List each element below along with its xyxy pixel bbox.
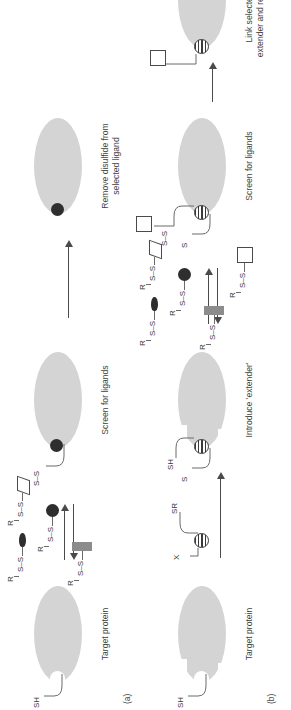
panel-a: (a) SH Target protein R S–S (4, 0, 146, 710)
panel-b-caption-extender: Introduce 'extender' (244, 325, 255, 475)
panel-a-caption-remove-l1: Remove disulfide from (100, 123, 110, 209)
reagent-x-label: X (172, 555, 181, 560)
library-b-2-residue: R (138, 284, 147, 290)
library-a-4-disulfide: S–S (76, 561, 85, 576)
library-a-4-residue: R (66, 580, 75, 586)
panel-a-label: (a) (122, 694, 132, 704)
library-b-4-disulfide: S–S (208, 325, 217, 340)
protein-pocket-step-b (218, 429, 226, 438)
library-b-ligand-square (237, 247, 253, 263)
library-b-5-disulfide: S–S (238, 273, 247, 288)
thiol-bond-line (186, 672, 210, 698)
extender-thiol-bond (170, 434, 196, 458)
protein-pocket-step-a (178, 659, 187, 672)
protein-blob (34, 586, 82, 682)
scientific-figure: (a) SH Target protein R S–S (0, 0, 291, 710)
library-a-ligand-circle (46, 504, 59, 517)
library-b-ligand-teardrop (151, 297, 158, 311)
library-a-ligand-parallelogram (17, 476, 30, 496)
library-b-ligand-rectangle (204, 306, 224, 315)
library-b-3-residue: R (168, 310, 177, 316)
protein-blob (34, 118, 82, 214)
library-b-1-disulfide: S–S (148, 321, 157, 336)
panel-b-label: (b) (266, 694, 276, 704)
extender-ligand-bond (152, 202, 196, 228)
screen-disulfide-label: S–S (160, 231, 169, 246)
panel-a-caption-remove-l2: selected ligand (111, 137, 121, 194)
extender-protein-link-label: S (180, 477, 189, 482)
bound-ligand-square (136, 216, 152, 232)
library-b-5-residue: R (228, 292, 237, 298)
reagent-sr-label: SR (170, 503, 179, 514)
protein-blob (178, 586, 226, 682)
protein-blob (178, 118, 226, 214)
library-b-1-residue: R (138, 340, 147, 346)
panel-a-caption-screen: Screen for ligands (100, 325, 111, 475)
library-b-3-disulfide: S–S (178, 291, 187, 306)
panel-a-equilibrium-arrows (62, 504, 78, 560)
panel-b-caption-screen: Screen for ligands (244, 91, 255, 241)
disulfide-bond-line (42, 440, 68, 470)
bound-ligand-circle (51, 203, 64, 216)
thiol-label: SH (32, 697, 41, 708)
panel-a-caption-remove: Remove disulfide fromselected ligand (100, 91, 121, 241)
panel-b-caption-link: Link selected ligand toextender and repl… (244, 0, 265, 75)
extender-thiol-label: SH (166, 459, 175, 470)
extender-protein-link-label: S (180, 243, 189, 248)
library-a-1-disulfide: S–S (16, 557, 25, 572)
panel-b: (b) SH Target protein SR X (148, 0, 290, 710)
library-a-2-residue: R (6, 520, 15, 526)
library-a-3-disulfide: S–S (46, 527, 55, 542)
bound-disulfide-label: S–S (32, 471, 41, 486)
library-a-1-residue: R (6, 576, 15, 582)
reagent-x-bond (182, 544, 202, 562)
panel-b-caption-link-l1: Link selected ligand to (244, 0, 254, 43)
library-b-4-residue: R (198, 344, 207, 350)
linked-ligand-square (150, 50, 166, 66)
panel-a-caption-target: Target protein (100, 559, 111, 709)
protein-pocket-step-b (218, 663, 226, 672)
thiol-label: SH (176, 697, 185, 708)
library-a-ligand-teardrop (19, 533, 26, 547)
library-b-2-disulfide: S–S (148, 266, 157, 281)
figure-rotation-wrapper: (a) SH Target protein R S–S (0, 0, 291, 710)
thiol-bond-line (42, 672, 66, 698)
library-a-2-disulfide: S–S (16, 502, 25, 517)
protein-blob (34, 352, 82, 448)
panel-b-caption-link-l2: extender and replace disulfide (255, 0, 265, 57)
panel-b-caption-target: Target protein (244, 559, 255, 709)
library-a-3-residue: R (36, 546, 45, 552)
library-b-ligand-circle (178, 268, 191, 281)
library-a-ligand-rectangle (72, 542, 92, 551)
